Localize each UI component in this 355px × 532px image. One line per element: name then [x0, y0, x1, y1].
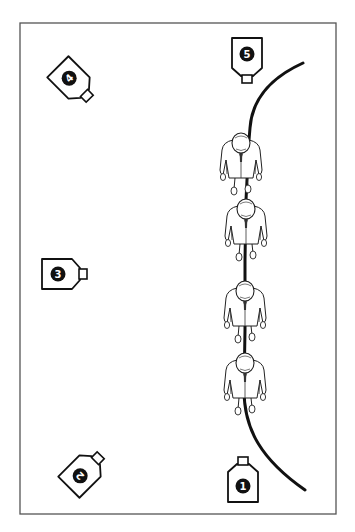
camera-1: 1 [228, 457, 258, 502]
camera-5-label: 5 [244, 49, 251, 60]
camera-placement-diagram: 1 2 3 4 5 [0, 0, 355, 532]
camera-2: 2 [58, 445, 111, 498]
person-1 [220, 133, 262, 195]
walking-path [244, 63, 305, 490]
camera-3: 3 [42, 259, 87, 289]
camera-1-label: 1 [240, 481, 247, 492]
camera-3-label: 3 [55, 269, 62, 280]
camera-4: 4 [47, 56, 100, 109]
camera-5: 5 [232, 38, 262, 83]
